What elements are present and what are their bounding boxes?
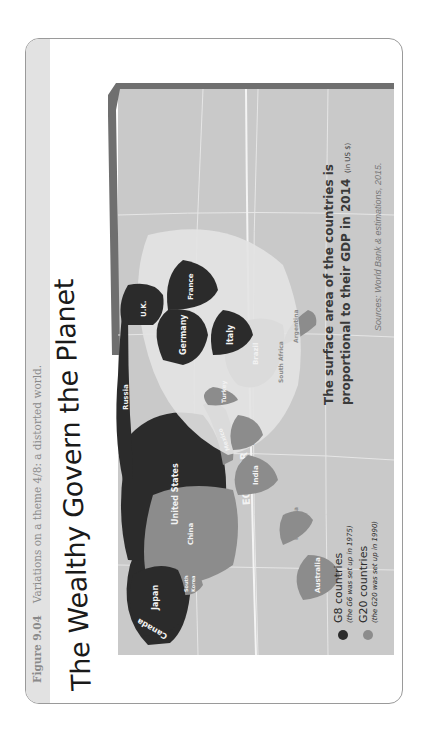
caption-strip: Figure 9.04Variations on a theme 4/8: a … (26, 39, 50, 703)
label-saudi-1: Saudi (240, 426, 247, 445)
legend-g8-label: G8 countries (332, 553, 345, 623)
map-title: The Wealthy Govern the Planet (48, 279, 97, 691)
label-china: China (187, 522, 195, 545)
label-uk: U.K. (140, 301, 148, 317)
figure-number: Figure 9.04 (31, 615, 43, 683)
label-south-korea-1: South (183, 575, 189, 592)
figure-frame: Figure 9.04Variations on a theme 4/8: a … (25, 38, 403, 704)
label-south-korea-2: Korea (190, 576, 196, 592)
sources-note: Sources: World Bank & estimations, 2015. (373, 162, 383, 331)
label-indonesia: Indonesia (292, 507, 299, 540)
map-subtitle-line1: The surface area of the countries is (322, 164, 336, 405)
label-brazil: Brazil (252, 343, 260, 365)
cartogram-map: EQUATOR (108, 83, 394, 655)
map-subtitle-unit: (in US $) (344, 142, 352, 173)
figure-caption-text: Variations on a theme 4/8: a distorted w… (31, 365, 43, 603)
legend-g20-note: (the G20 was set up in 1990) (371, 521, 379, 623)
label-australia: Australia (314, 557, 322, 593)
label-south-africa: South Africa (277, 341, 284, 383)
label-russia: Russia (122, 384, 130, 410)
figure-caption: Figure 9.04Variations on a theme 4/8: a … (31, 365, 43, 683)
legend-g20-label: G20 countries (357, 546, 370, 623)
label-argentina: Argentina (292, 310, 300, 343)
label-india: India (252, 465, 260, 485)
label-japan: Japan (151, 585, 160, 612)
label-italy: Italy (226, 324, 235, 345)
label-united-states: United States (171, 463, 180, 525)
label-saudi-2: Arabia (248, 423, 255, 445)
frame-band-right (118, 83, 394, 89)
legend-g8-note: (the G6 was set up in 1975) (346, 525, 354, 623)
legend-g20-swatch (363, 630, 373, 640)
label-turkey: Turkey (220, 380, 228, 403)
legend-g8-swatch (338, 630, 348, 640)
label-france: France (187, 273, 195, 300)
map-subtitle-line2: proportional to their GDP in 2014 (339, 179, 353, 405)
rotated-page: Figure 9.04Variations on a theme 4/8: a … (25, 38, 403, 704)
label-germany: Germany (179, 314, 188, 355)
